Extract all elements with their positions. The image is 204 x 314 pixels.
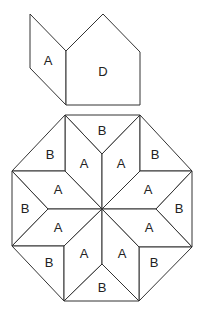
piece-label: A: [144, 182, 153, 197]
piece-label: B: [45, 255, 54, 270]
piece-label: B: [175, 201, 184, 216]
tangram-diagram: AD BAABBAABBAABBAAB: [0, 0, 204, 314]
octagon_pieces-piece-b-triangle: [12, 115, 65, 171]
piece-label: B: [150, 255, 159, 270]
piece-label: D: [98, 64, 107, 79]
piece-label: A: [145, 220, 154, 235]
octagon_pieces-piece-b-triangle: [139, 247, 192, 301]
piece-label: B: [21, 201, 30, 216]
octagon_pieces-piece-b-triangle: [12, 246, 64, 301]
piece-label: A: [44, 53, 53, 68]
piece-label: A: [80, 156, 89, 171]
piece-label: A: [118, 246, 127, 261]
piece-label: B: [98, 123, 107, 138]
octagon_pieces-piece-b-triangle: [140, 115, 192, 171]
octagon-star: BAABBAABBAABBAAB: [12, 115, 192, 301]
piece-label: A: [54, 220, 63, 235]
piece-label: B: [98, 280, 107, 295]
piece-label: A: [54, 182, 63, 197]
piece-label: B: [151, 147, 160, 162]
piece-label: A: [80, 246, 89, 261]
top_pieces-piece-d-pentagon: [66, 14, 140, 105]
top-pieces: AD: [30, 14, 140, 105]
piece-label: A: [117, 156, 126, 171]
piece-label: B: [46, 147, 55, 162]
